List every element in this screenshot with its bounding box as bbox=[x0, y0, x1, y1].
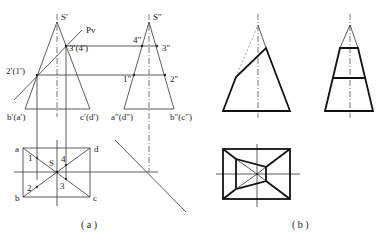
point-2-1-front bbox=[36, 74, 38, 76]
label-b-c-side: b″(c″) bbox=[170, 112, 192, 122]
removed-edge-left bbox=[236, 25, 258, 77]
label-d-top: d bbox=[94, 144, 99, 154]
caption-b: ( b ) bbox=[292, 219, 309, 231]
label-1-top: 1 bbox=[28, 153, 33, 163]
side-apex-right bbox=[350, 25, 358, 48]
edge-a bbox=[223, 149, 236, 159]
hidden-diag-4 bbox=[257, 174, 266, 181]
apex-point-top-b bbox=[256, 173, 258, 175]
edge-d bbox=[266, 149, 290, 167]
caption-a: ( a ) bbox=[81, 219, 97, 231]
point-4-side bbox=[141, 45, 143, 47]
label-a-d-side: a″(d″) bbox=[111, 112, 133, 122]
label-3-top: 3 bbox=[60, 181, 65, 191]
figure-b: ( b ) bbox=[216, 14, 373, 231]
label-3-4-front: 3′(4′) bbox=[69, 43, 88, 53]
top-view-a: a d b c S 1 2 3 4 bbox=[14, 140, 186, 212]
side-apex-left bbox=[340, 25, 350, 48]
edge-b bbox=[223, 189, 236, 199]
point-3-side bbox=[156, 45, 158, 47]
truncated-side-outline bbox=[325, 48, 373, 111]
label-b-top: b bbox=[15, 193, 20, 203]
top-view-b bbox=[216, 144, 300, 207]
point-4-top bbox=[65, 164, 67, 166]
label-a-top: a bbox=[15, 144, 19, 154]
label-2-1-front: 2′(1′) bbox=[6, 66, 25, 76]
point-2-side bbox=[164, 74, 166, 76]
label-4-side: 4″ bbox=[133, 35, 142, 45]
removed-edge-right bbox=[258, 25, 266, 48]
label-2-side: 2″ bbox=[170, 74, 179, 84]
point-2-top bbox=[36, 186, 38, 188]
point-3-4-front bbox=[65, 45, 67, 47]
point-3-top bbox=[65, 178, 67, 180]
label-pv: Pv bbox=[86, 25, 96, 35]
label-s-prime: S′ bbox=[61, 12, 68, 22]
side-view-b bbox=[325, 14, 373, 118]
hidden-diag-3 bbox=[257, 167, 266, 174]
point-s-top bbox=[56, 171, 59, 174]
front-view-b bbox=[223, 14, 290, 118]
label-4-top: 4 bbox=[61, 154, 66, 164]
label-s-double-prime: S″ bbox=[153, 12, 162, 22]
miter-line-45 bbox=[115, 140, 186, 212]
label-2-top: 2 bbox=[27, 183, 32, 193]
front-pyramid-sides bbox=[25, 22, 90, 109]
label-3-side: 3″ bbox=[162, 43, 171, 53]
truncated-front-outline bbox=[223, 48, 290, 111]
label-c-top: c bbox=[93, 193, 97, 203]
label-1-side: 1″ bbox=[123, 74, 132, 84]
edge-c bbox=[266, 181, 290, 199]
figure-a: S′ Pv 3′(4′) 2′(1′) b′(a′) c′(d′) S″ 4″ … bbox=[6, 12, 192, 231]
label-c-d-front: c′(d′) bbox=[80, 112, 98, 122]
point-1-top bbox=[36, 157, 38, 159]
pyramid-section-diagram: S′ Pv 3′(4′) 2′(1′) b′(a′) c′(d′) S″ 4″ … bbox=[0, 0, 383, 240]
cutting-plane-pv bbox=[14, 30, 82, 100]
point-1-side bbox=[133, 74, 135, 76]
label-b-a-front: b′(a′) bbox=[7, 112, 25, 122]
label-s-top: S bbox=[49, 158, 54, 168]
